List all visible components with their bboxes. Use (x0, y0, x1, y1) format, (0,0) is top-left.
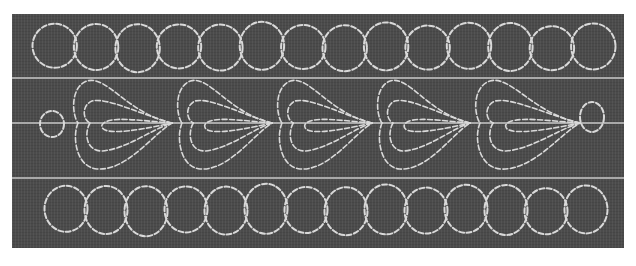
stitch-loop (245, 184, 288, 234)
stitch-pattern (0, 0, 636, 266)
petal-inner-lower (190, 123, 272, 151)
stitch-loop (33, 24, 77, 68)
stitch-loop (530, 26, 574, 70)
petal-inner-lower (490, 123, 580, 151)
stitch-loop (525, 188, 568, 234)
petal-inner-lower (390, 123, 470, 151)
stitch-loop (240, 22, 284, 70)
stitch-loop (565, 185, 608, 233)
petal-outer-upper (74, 80, 172, 123)
petal-outer-upper (476, 80, 580, 123)
petal-core (102, 119, 172, 131)
stitch-loop (85, 186, 128, 234)
petal-inner-lower (87, 123, 172, 151)
stitch-loop (447, 23, 491, 69)
stitch-loop (485, 185, 528, 235)
petal-inner-upper (84, 100, 172, 123)
stitch-loop (198, 25, 242, 71)
petal-outer-upper (278, 80, 372, 123)
stitch-loop (45, 186, 88, 232)
stitch-loop (571, 23, 615, 69)
stitch-loop (165, 186, 208, 232)
stitch-loop (74, 24, 118, 70)
petal-outer-upper (178, 80, 272, 123)
stitch-loop (405, 26, 449, 70)
bottom-loop-row (45, 184, 608, 236)
stitch-loop (281, 25, 325, 69)
stitch-loop (365, 184, 408, 234)
top-loop-row (33, 22, 616, 72)
stitch-loop (157, 24, 201, 68)
stitch-loop (285, 187, 328, 233)
stitch-loop (364, 22, 408, 70)
stitch-loop (205, 187, 248, 235)
stitch-loop (323, 25, 367, 71)
stitch-loop (405, 188, 448, 234)
petal-core (506, 119, 580, 131)
stitch-loop (325, 187, 368, 235)
petal-outer-upper (378, 80, 470, 123)
stitch-loop (488, 23, 532, 71)
middle-feather-row (40, 80, 604, 169)
stitch-loop (125, 186, 168, 236)
stitch-loop (445, 185, 488, 233)
petal-inner-lower (290, 123, 372, 151)
stitch-loop (115, 24, 159, 72)
end-circle-right (580, 102, 604, 132)
